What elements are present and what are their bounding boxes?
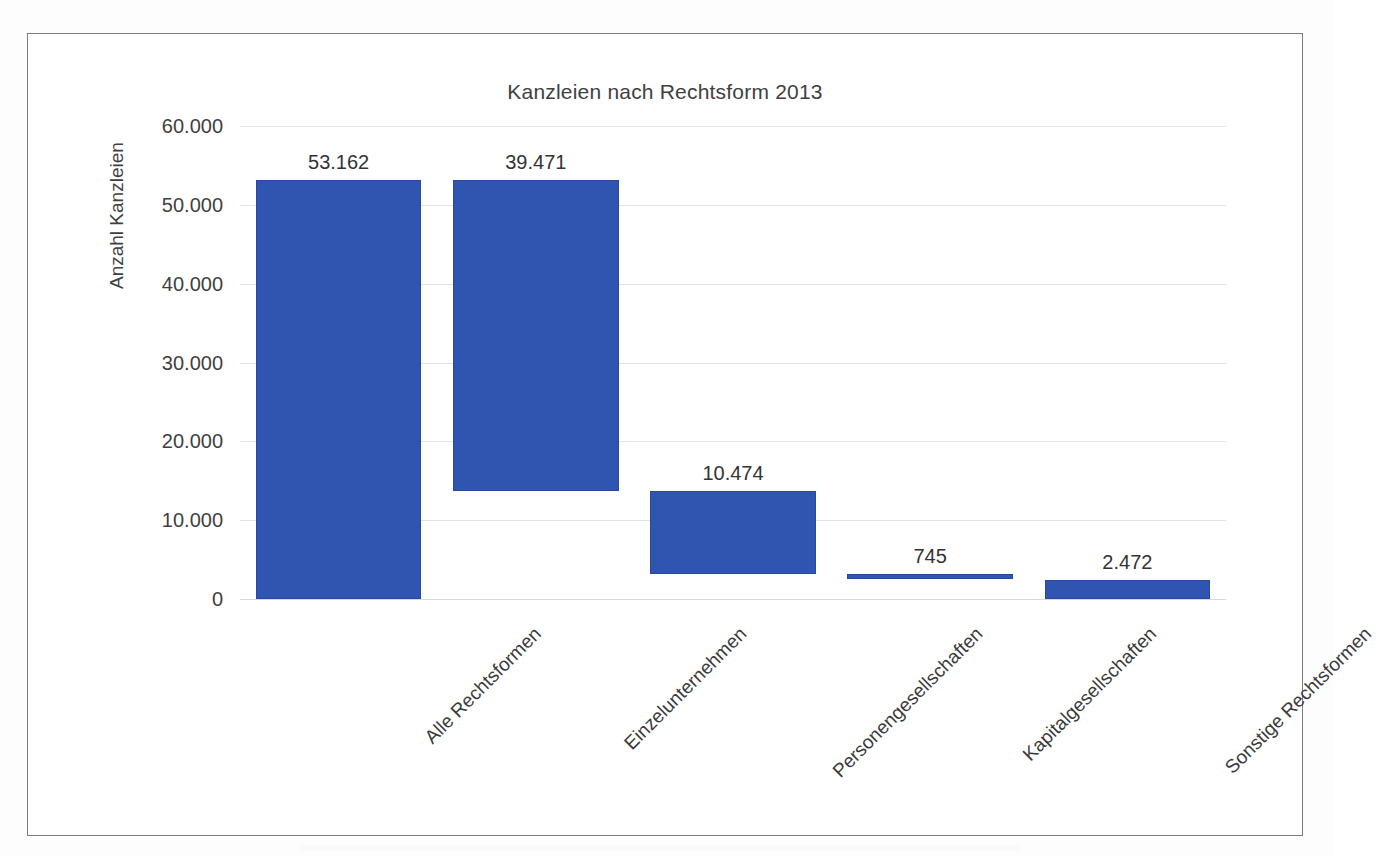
y-axis-title: Anzahl Kanzleien bbox=[106, 142, 128, 289]
bar-sonstige-rechtsformen[interactable] bbox=[1045, 580, 1211, 599]
chart-title: Kanzleien nach Rechtsform 2013 bbox=[28, 80, 1302, 104]
bar-alle-rechtsformen[interactable] bbox=[256, 180, 422, 599]
x-category-label: Alle Rechtsformen bbox=[420, 623, 545, 748]
x-category-label: Kapitalgesellschaften bbox=[1019, 623, 1162, 766]
bar-personengesellschaften[interactable] bbox=[650, 491, 816, 574]
y-tick-label: 0 bbox=[212, 588, 223, 611]
bar-value-label: 745 bbox=[914, 545, 947, 568]
figure-frame: Kanzleien nach Rechtsform 2013 Anzahl Ka… bbox=[27, 33, 1303, 836]
y-tick-label: 30.000 bbox=[162, 351, 223, 374]
x-category-label: Einzelunternehmen bbox=[620, 623, 751, 754]
y-tick-label: 60.000 bbox=[162, 115, 223, 138]
plot-area: 60.000 50.000 40.000 30.000 20.000 10.00… bbox=[240, 126, 1226, 599]
y-tick-label: 20.000 bbox=[162, 430, 223, 453]
x-category-label: Personengesellschaften bbox=[828, 623, 987, 782]
scan-artifact bbox=[300, 845, 1020, 851]
bar-value-label: 10.474 bbox=[702, 462, 763, 485]
bar-kapitalgesellschaften[interactable] bbox=[847, 574, 1013, 580]
gridline-60000: 60.000 bbox=[240, 126, 1226, 127]
y-tick-label: 50.000 bbox=[162, 193, 223, 216]
bar-value-label: 53.162 bbox=[308, 151, 369, 174]
bar-einzelunternehmen[interactable] bbox=[453, 180, 619, 491]
bar-value-label: 2.472 bbox=[1102, 551, 1152, 574]
gridline-zero: 0 bbox=[240, 599, 1226, 600]
y-tick-label: 40.000 bbox=[162, 272, 223, 295]
x-category-label: Sonstige Rechtsformen bbox=[1221, 623, 1376, 778]
bar-value-label: 39.471 bbox=[505, 151, 566, 174]
y-tick-label: 10.000 bbox=[162, 509, 223, 532]
